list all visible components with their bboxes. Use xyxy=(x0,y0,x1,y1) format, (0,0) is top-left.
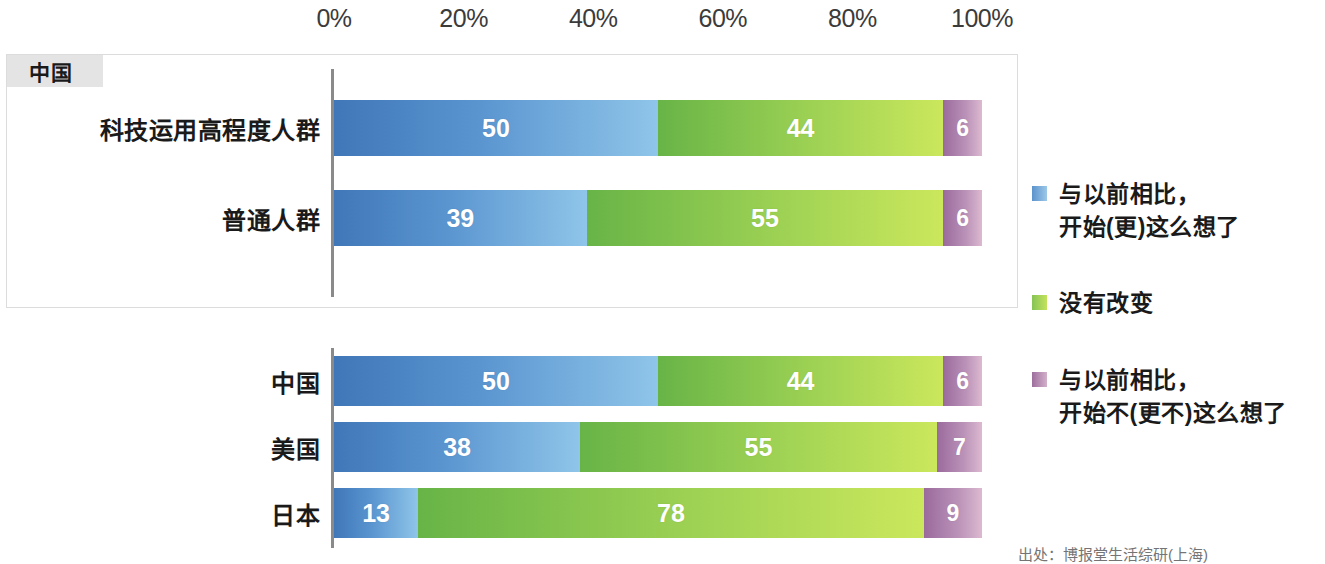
x-axis-tick-80: 80% xyxy=(828,4,877,33)
stacked-bar: 50446 xyxy=(334,100,982,156)
segment-decrease: 6 xyxy=(943,100,982,156)
segment-decrease: 9 xyxy=(924,488,982,538)
segment-value-label: 78 xyxy=(657,499,685,528)
segment-nochange: 55 xyxy=(587,190,943,246)
segment-value-label: 6 xyxy=(956,368,969,395)
segment-value-label: 44 xyxy=(787,114,815,143)
segment-nochange: 44 xyxy=(658,100,943,156)
segment-value-label: 13 xyxy=(362,499,390,528)
segment-decrease: 6 xyxy=(943,356,982,406)
green-swatch-icon xyxy=(1032,295,1047,310)
bar-row-label: 中国 xyxy=(6,356,320,406)
bar-row: 普通人群39556 xyxy=(7,190,1017,246)
bar-row: 美国38557 xyxy=(6,422,1018,472)
segment-decrease: 7 xyxy=(937,422,982,472)
segment-increase: 50 xyxy=(334,356,658,406)
x-axis-tick-0: 0% xyxy=(316,4,351,33)
country-comparison-panel: 中国50446美国38557日本13789 xyxy=(6,330,1018,558)
bar-row-label: 科技运用高程度人群 xyxy=(7,100,320,156)
chart-plot-area-top: 科技运用高程度人群50446普通人群39556 xyxy=(7,55,1017,307)
stacked-bar: 39556 xyxy=(334,190,982,246)
segment-value-label: 6 xyxy=(956,115,969,142)
bar-row: 日本13789 xyxy=(6,488,1018,538)
source-note: 出处：博报堂生活综研(上海) xyxy=(1018,543,1208,564)
x-axis-tick-100: 100% xyxy=(951,4,1013,33)
legend-label: 与以前相比， 开始不(更不)这么想了 xyxy=(1059,364,1287,429)
segment-decrease: 6 xyxy=(943,190,982,246)
segment-increase: 50 xyxy=(334,100,658,156)
highlight-panel-china: 中国 科技运用高程度人群50446普通人群39556 xyxy=(6,54,1018,308)
segment-value-label: 55 xyxy=(751,204,779,233)
bar-row: 科技运用高程度人群50446 xyxy=(7,100,1017,156)
legend-label: 没有改变 xyxy=(1059,287,1153,320)
segment-increase: 38 xyxy=(334,422,580,472)
bar-row-label: 普通人群 xyxy=(7,190,320,246)
legend-item[interactable]: 与以前相比， 开始(更)这么想了 xyxy=(1032,178,1322,243)
segment-nochange: 78 xyxy=(418,488,923,538)
bar-row-label: 美国 xyxy=(6,422,320,472)
chart-plot-area-bottom: 中国50446美国38557日本13789 xyxy=(6,330,1018,558)
segment-value-label: 55 xyxy=(745,433,773,462)
legend-label: 与以前相比， 开始(更)这么想了 xyxy=(1059,178,1240,243)
blue-swatch-icon xyxy=(1032,186,1047,201)
bar-row-label: 日本 xyxy=(6,488,320,538)
stacked-bar: 13789 xyxy=(334,488,982,538)
segment-nochange: 55 xyxy=(580,422,936,472)
segment-value-label: 39 xyxy=(446,204,474,233)
stacked-bar: 50446 xyxy=(334,356,982,406)
legend-item[interactable]: 与以前相比， 开始不(更不)这么想了 xyxy=(1032,364,1322,429)
legend-item[interactable]: 没有改变 xyxy=(1032,287,1322,320)
segment-value-label: 50 xyxy=(482,114,510,143)
segment-increase: 39 xyxy=(334,190,587,246)
x-axis-tick-20: 20% xyxy=(439,4,488,33)
segment-increase: 13 xyxy=(334,488,418,538)
x-axis-tick-labels: 0%20%40%60%80%100% xyxy=(0,0,1030,44)
x-axis-tick-40: 40% xyxy=(569,4,618,33)
segment-value-label: 9 xyxy=(946,500,959,527)
bar-row: 中国50446 xyxy=(6,356,1018,406)
x-axis-tick-60: 60% xyxy=(699,4,748,33)
segment-value-label: 7 xyxy=(953,434,966,461)
chart-legend: 与以前相比， 开始(更)这么想了没有改变与以前相比， 开始不(更不)这么想了 xyxy=(1032,178,1322,473)
segment-nochange: 44 xyxy=(658,356,943,406)
segment-value-label: 50 xyxy=(482,367,510,396)
stacked-bar: 38557 xyxy=(334,422,982,472)
segment-value-label: 44 xyxy=(787,367,815,396)
segment-value-label: 6 xyxy=(956,205,969,232)
purple-swatch-icon xyxy=(1032,372,1047,387)
segment-value-label: 38 xyxy=(443,433,471,462)
